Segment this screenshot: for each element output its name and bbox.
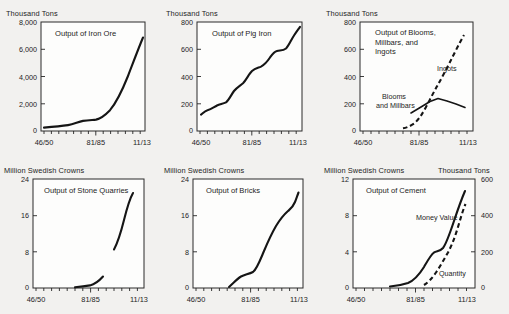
x-tick: 11/13	[289, 138, 307, 147]
x-tick-marks	[200, 131, 296, 136]
y-tick: 400	[181, 73, 193, 82]
y-axis-label: Thousand Tons	[166, 9, 218, 18]
x-tick: 46/50	[35, 138, 54, 147]
y-tick: 200	[181, 100, 193, 109]
y-axis-label: Million Swedish Crowns	[4, 166, 84, 175]
series-label-ingots: Ingots	[437, 64, 457, 73]
chart-title: Output of Cement	[366, 186, 427, 195]
y-tick-right: 200	[481, 248, 493, 257]
y-tick-left: 4	[345, 248, 349, 257]
y-axis-label: Thousand Tons	[326, 9, 378, 18]
x-tick: 11/13	[133, 138, 151, 147]
x-tick-marks	[363, 131, 467, 136]
y-tick-right: 600	[481, 175, 493, 184]
x-tick: 46/50	[187, 295, 206, 304]
x-tick: 46/50	[192, 138, 211, 147]
y-tick: 800	[181, 18, 193, 27]
chart-panel-iron-ore: Thousand Tons Output of Iron Ore 8,000 6…	[0, 0, 160, 157]
y-tick: 0	[352, 126, 356, 135]
chart-title: Output of Pig Iron	[212, 29, 272, 38]
y-tick: 0	[33, 126, 37, 135]
y-tick: 0	[25, 283, 29, 292]
chart-panel-stone-quarries: Million Swedish Crowns Output of Stone Q…	[0, 157, 160, 314]
y-tick: 24	[21, 175, 29, 184]
y-tick: 2,000	[19, 100, 37, 109]
x-tick-marks	[356, 288, 467, 293]
y-axis-label-right: Thousand Tons	[438, 166, 490, 175]
chart-panel-blooms-millbars-ingots: Thousand Tons Output of Blooms, Millbars…	[320, 0, 509, 157]
y-tick-left: 8	[345, 211, 349, 220]
y-tick-right: 400	[481, 211, 493, 220]
y-tick: 16	[181, 211, 189, 220]
y-tick-left: 0	[345, 283, 349, 292]
x-tick: 81/85	[81, 295, 100, 304]
series-label-money-value: Money Value	[416, 213, 457, 222]
x-tick: 81/85	[406, 295, 425, 304]
x-tick-marks	[196, 288, 297, 293]
chart-panel-bricks: Million Swedish Crowns Output of Bricks …	[160, 157, 320, 314]
chart-title: Output of Bricks	[206, 186, 260, 195]
series-label-blooms-line1: Blooms	[382, 92, 406, 101]
y-tick-left: 12	[341, 175, 349, 184]
x-tick: 11/13	[458, 295, 476, 304]
x-tick: 81/85	[410, 138, 429, 147]
y-tick: 600	[181, 45, 193, 54]
chart-title: Output of Stone Quarries	[44, 186, 129, 195]
x-tick: 46/50	[27, 295, 46, 304]
x-tick: 81/85	[87, 138, 106, 147]
y-tick: 0	[189, 126, 193, 135]
x-tick-marks	[44, 131, 140, 136]
y-tick: 800	[344, 18, 356, 27]
chart-title: Output of Blooms,	[375, 28, 436, 37]
x-tick: 46/50	[354, 138, 373, 147]
chart-panel-cement: Million Swedish Crowns Thousand Tons Out…	[320, 157, 509, 314]
y-tick: 8	[25, 248, 29, 257]
y-axis-label: Million Swedish Crowns	[164, 166, 244, 175]
y-tick: 16	[21, 211, 29, 220]
series-label-blooms-line2: and Millbars	[376, 101, 415, 110]
y-tick: 200	[344, 100, 356, 109]
chart-title: Output of Iron Ore	[55, 29, 116, 38]
y-tick: 0	[185, 283, 189, 292]
series-label-quantity: Quantity	[439, 269, 466, 278]
y-tick: 400	[344, 73, 356, 82]
x-tick: 46/50	[347, 295, 366, 304]
y-tick-right: 0	[481, 283, 485, 292]
chart-title-line2: Millbars, and	[375, 38, 418, 47]
y-tick: 8,000	[19, 18, 37, 27]
chart-panel-pig-iron: Thousand Tons Output of Pig Iron 800 600…	[160, 0, 320, 157]
y-tick: 6,000	[19, 45, 37, 54]
y-axis-label: Thousand Tons	[6, 9, 58, 18]
y-tick: 4,000	[19, 73, 37, 82]
chart-grid: Thousand Tons Output of Iron Ore 8,000 6…	[0, 0, 509, 314]
x-tick: 11/13	[290, 295, 308, 304]
x-tick: 11/13	[130, 295, 148, 304]
x-tick: 81/85	[243, 138, 261, 147]
x-tick-marks	[36, 288, 137, 293]
y-tick: 8	[185, 248, 189, 257]
y-axis-label-left: Million Swedish Crowns	[324, 166, 404, 175]
x-tick: 81/85	[241, 295, 260, 304]
x-tick: 11/13	[459, 138, 477, 147]
y-tick: 600	[344, 45, 356, 54]
chart-title-line3: Ingots	[375, 47, 396, 56]
y-tick: 24	[181, 175, 189, 184]
